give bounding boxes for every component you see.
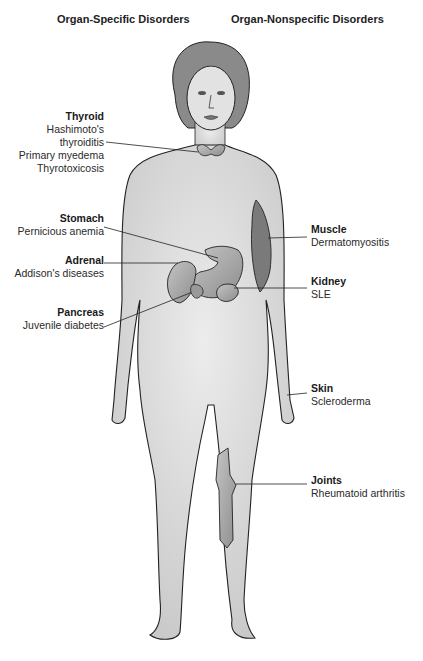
disorder: Rheumatoid arthritis bbox=[311, 487, 405, 500]
label-joints: Joints Rheumatoid arthritis bbox=[311, 474, 405, 500]
organ-name: Thyroid bbox=[19, 110, 104, 123]
organ-name: Stomach bbox=[18, 212, 104, 225]
organ-name: Joints bbox=[311, 474, 405, 487]
disorder: Thyrotoxicosis bbox=[19, 162, 104, 175]
label-skin: Skin Scleroderma bbox=[311, 382, 371, 408]
disorder: Hashimoto's bbox=[19, 123, 104, 136]
label-adrenal: Adrenal Addison's diseases bbox=[14, 254, 104, 280]
organ-name: Skin bbox=[311, 382, 371, 395]
disorder: Pernicious anemia bbox=[18, 225, 104, 238]
disorder: thyroiditis bbox=[19, 136, 104, 149]
label-muscle: Muscle Dermatomyositis bbox=[311, 223, 389, 249]
organ-name: Kidney bbox=[311, 275, 346, 288]
body bbox=[112, 145, 294, 639]
disorder: Scleroderma bbox=[311, 395, 371, 408]
label-stomach: Stomach Pernicious anemia bbox=[18, 212, 104, 238]
label-kidney: Kidney SLE bbox=[311, 275, 346, 301]
disorder: SLE bbox=[311, 288, 346, 301]
disorder: Juvenile diabetes bbox=[23, 319, 104, 332]
face bbox=[187, 66, 235, 130]
disorder: Addison's diseases bbox=[14, 267, 104, 280]
organ-name: Adrenal bbox=[14, 254, 104, 267]
organ-name: Muscle bbox=[311, 223, 389, 236]
disorder: Dermatomyositis bbox=[311, 236, 389, 249]
label-thyroid: Thyroid Hashimoto's thyroiditis Primary … bbox=[19, 110, 104, 175]
label-pancreas: Pancreas Juvenile diabetes bbox=[23, 306, 104, 332]
organ-name: Pancreas bbox=[23, 306, 104, 319]
disorder: Primary myedema bbox=[19, 149, 104, 162]
